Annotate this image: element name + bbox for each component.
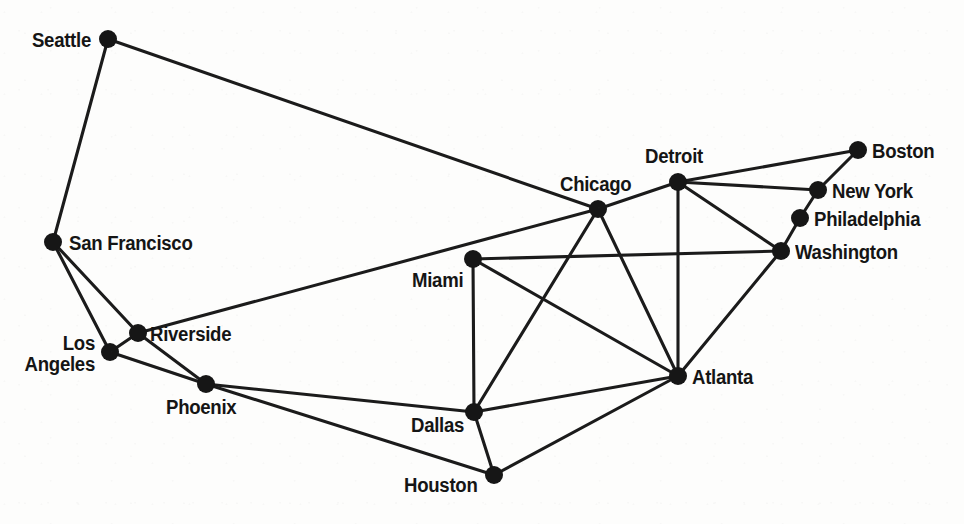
node-label-atlanta: Atlanta [692, 367, 753, 388]
node-label-miami: Miami [412, 270, 463, 291]
node-label-san_francisco: San Francisco [69, 233, 193, 254]
node-label-phoenix: Phoenix [166, 397, 236, 418]
node-label-philadelphia: Philadelphia [814, 209, 920, 230]
node-label-detroit: Detroit [645, 146, 703, 167]
node-label-seattle: Seattle [6, 30, 91, 51]
network-diagram: SeattleSan FranciscoLos AngelesRiverside… [0, 0, 964, 524]
node-label-houston: Houston [404, 475, 477, 496]
node-label-boston: Boston [872, 141, 934, 162]
node-label-los_angeles: Los Angeles [7, 333, 95, 375]
node-label-dallas: Dallas [411, 415, 464, 436]
node-label-riverside: Riverside [150, 324, 231, 345]
node-label-new_york: New York [832, 181, 913, 202]
node-label-chicago: Chicago [560, 174, 631, 195]
node-label-washington: Washington [795, 242, 898, 263]
node-label-layer: SeattleSan FranciscoLos AngelesRiverside… [0, 0, 964, 524]
